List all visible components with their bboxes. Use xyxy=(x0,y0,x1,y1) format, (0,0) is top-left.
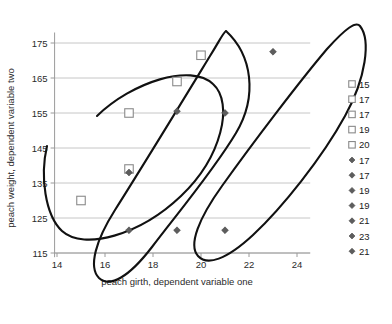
cluster-ellipse-left xyxy=(44,75,223,239)
legend-label: 19 xyxy=(359,185,370,196)
data-point xyxy=(197,51,206,60)
legend: 151717192017171919212321 xyxy=(349,79,370,257)
legend-marker-open-square xyxy=(349,96,356,103)
data-point xyxy=(173,77,182,86)
legend-label: 17 xyxy=(359,170,370,181)
axes-group: 115125135145155165175141618202224 xyxy=(32,33,310,271)
x-tick-label: 14 xyxy=(52,259,63,270)
legend-marker-open-square xyxy=(349,81,356,88)
y-tick-label: 125 xyxy=(32,213,48,224)
x-tick-label: 22 xyxy=(244,259,255,270)
legend-marker-filled-diamond xyxy=(349,187,355,193)
data-point xyxy=(270,48,277,55)
y-tick-label: 175 xyxy=(32,38,48,49)
y-tick-label: 155 xyxy=(32,108,48,119)
data-point xyxy=(125,109,134,118)
legend-marker-filled-diamond xyxy=(349,233,355,239)
legend-marker-filled-diamond xyxy=(349,157,355,163)
y-tick-label: 115 xyxy=(32,248,47,259)
y-tick-label: 165 xyxy=(32,73,48,84)
legend-marker-filled-diamond xyxy=(349,248,355,254)
legend-label: 17 xyxy=(359,155,370,166)
series-squares xyxy=(77,51,206,205)
y-axis-title: peach weight, dependent variable two xyxy=(5,68,16,228)
legend-label: 19 xyxy=(359,200,370,211)
legend-marker-filled-diamond xyxy=(349,172,355,178)
legend-label: 17 xyxy=(359,94,370,105)
legend-label: 21 xyxy=(359,246,370,257)
legend-marker-open-square xyxy=(349,126,356,133)
cluster-ellipse-middle xyxy=(94,31,249,282)
legend-marker-filled-diamond xyxy=(349,203,355,209)
legend-marker-open-square xyxy=(349,111,356,118)
legend-marker-filled-diamond xyxy=(349,218,355,224)
data-point xyxy=(77,196,86,205)
legend-label: 21 xyxy=(359,215,370,226)
chart-canvas: 115125135145155165175141618202224peach g… xyxy=(0,0,392,324)
legend-label: 17 xyxy=(359,109,370,120)
data-point xyxy=(126,227,133,234)
x-tick-label: 24 xyxy=(292,259,303,270)
x-tick-label: 16 xyxy=(100,259,111,270)
x-tick-label: 18 xyxy=(148,259,159,270)
scatter-chart: 115125135145155165175141618202224peach g… xyxy=(0,0,392,324)
legend-label: 20 xyxy=(359,139,370,150)
cluster-ellipse-right xyxy=(194,24,365,260)
x-axis-title: peach girth, dependent variable one xyxy=(101,276,253,287)
legend-marker-open-square xyxy=(349,142,356,149)
legend-label: 23 xyxy=(359,231,370,242)
data-point xyxy=(222,227,229,234)
legend-label: 19 xyxy=(359,124,370,135)
cluster-ellipses-group xyxy=(44,24,366,281)
legend-label: 15 xyxy=(359,79,370,90)
data-point xyxy=(174,227,181,234)
